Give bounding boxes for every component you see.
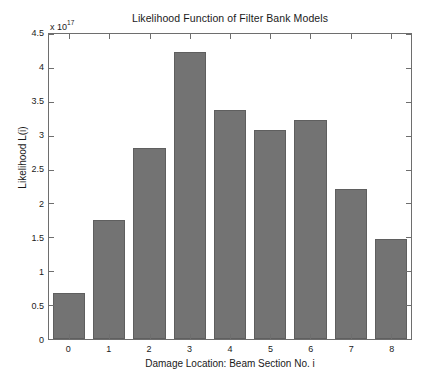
bar-slot <box>331 34 371 339</box>
x-axis-tick-label: 0 <box>66 344 71 354</box>
figure-canvas: Likelihood Function of Filter Bank Model… <box>0 0 445 381</box>
x-axis-title: Damage Location: Beam Section No. i <box>48 358 412 369</box>
x-axis-tick-label: 2 <box>147 344 152 354</box>
y-axis-tick-mark-right <box>406 68 411 69</box>
y-axis-tick-mark-right <box>406 305 411 306</box>
x-axis-tick-mark-top <box>310 34 311 39</box>
y-axis-tick-mark-right <box>406 203 411 204</box>
y-axis-tick-mark-right <box>406 34 411 35</box>
bar-slot <box>89 34 129 339</box>
y-axis-tick-mark <box>49 271 54 272</box>
y-axis-tick-mark <box>49 136 54 137</box>
x-axis-tick-mark-top <box>270 34 271 39</box>
x-axis-tick-mark <box>270 334 271 339</box>
chart-title: Likelihood Function of Filter Bank Model… <box>48 12 412 24</box>
y-axis-tick-label: 0.5 <box>31 301 44 311</box>
y-axis-tick-mark-right <box>406 339 411 340</box>
y-axis-tick-label: 3.5 <box>31 96 44 106</box>
y-axis-tick-label: 1.5 <box>31 233 44 243</box>
y-axis-tick-label: 4 <box>39 62 44 72</box>
bar-slot <box>129 34 169 339</box>
y-axis-tick-label: 2 <box>39 199 44 209</box>
plot-area <box>48 33 412 340</box>
bar-slot <box>250 34 290 339</box>
y-axis-tick-mark <box>49 305 54 306</box>
bar <box>375 239 407 339</box>
x-axis-tick-mark-top <box>190 34 191 39</box>
bar <box>53 293 85 339</box>
bar-slot <box>371 34 411 339</box>
x-axis-tick-mark-top <box>69 34 70 39</box>
x-axis-tick-label: 1 <box>106 344 111 354</box>
exponent-power: 17 <box>67 19 74 26</box>
bar-slot <box>290 34 330 339</box>
bar-slot <box>170 34 210 339</box>
x-axis-tick-mark-top <box>351 34 352 39</box>
x-axis-tick-mark-top <box>391 34 392 39</box>
y-axis-exponent-label: x 1017 <box>50 20 74 32</box>
x-axis-tick-mark <box>391 334 392 339</box>
y-axis-tick-mark-right <box>406 102 411 103</box>
y-axis-tick-mark <box>49 102 54 103</box>
x-axis-tick-labels: 012345678 <box>48 344 412 358</box>
y-axis-tick-mark <box>49 339 54 340</box>
y-axis-title: Likelihood L(i) <box>17 98 28 218</box>
y-axis-tick-mark <box>49 237 54 238</box>
x-axis-tick-label: 7 <box>349 344 354 354</box>
x-axis-tick-mark <box>351 334 352 339</box>
x-axis-tick-label: 6 <box>308 344 313 354</box>
y-axis-tick-mark-right <box>406 170 411 171</box>
x-axis-tick-mark <box>150 334 151 339</box>
x-axis-tick-label: 3 <box>187 344 192 354</box>
bar <box>174 52 206 339</box>
y-axis-tick-mark-right <box>406 136 411 137</box>
x-axis-tick-label: 4 <box>227 344 232 354</box>
x-axis-tick-mark <box>109 334 110 339</box>
x-axis-tick-mark-top <box>230 34 231 39</box>
x-axis-tick-mark <box>310 334 311 339</box>
x-axis-tick-label: 5 <box>268 344 273 354</box>
bar <box>254 130 286 339</box>
bar <box>93 220 125 339</box>
x-axis-tick-mark-top <box>150 34 151 39</box>
x-axis-tick-mark <box>230 334 231 339</box>
bar-slot <box>49 34 89 339</box>
bar <box>335 189 367 339</box>
y-axis-tick-label: 0 <box>39 335 44 345</box>
y-axis-tick-mark <box>49 68 54 69</box>
bar-slot <box>210 34 250 339</box>
x-axis-tick-mark <box>190 334 191 339</box>
y-axis-tick-mark-right <box>406 237 411 238</box>
y-axis-tick-label: 4.5 <box>31 28 44 38</box>
y-axis-tick-mark <box>49 203 54 204</box>
bar <box>214 110 246 339</box>
bar <box>294 120 326 339</box>
x-axis-tick-mark-top <box>109 34 110 39</box>
y-axis-tick-mark <box>49 170 54 171</box>
x-axis-tick-mark <box>69 334 70 339</box>
y-axis-tick-mark-right <box>406 271 411 272</box>
exponent-prefix: x 10 <box>50 22 67 32</box>
bars-layer <box>49 34 411 339</box>
y-axis-tick-mark <box>49 34 54 35</box>
x-axis-tick-label: 8 <box>389 344 394 354</box>
y-axis-tick-label: 1 <box>39 267 44 277</box>
bar <box>133 148 165 339</box>
y-axis-tick-label: 3 <box>39 130 44 140</box>
y-axis-tick-label: 2.5 <box>31 164 44 174</box>
